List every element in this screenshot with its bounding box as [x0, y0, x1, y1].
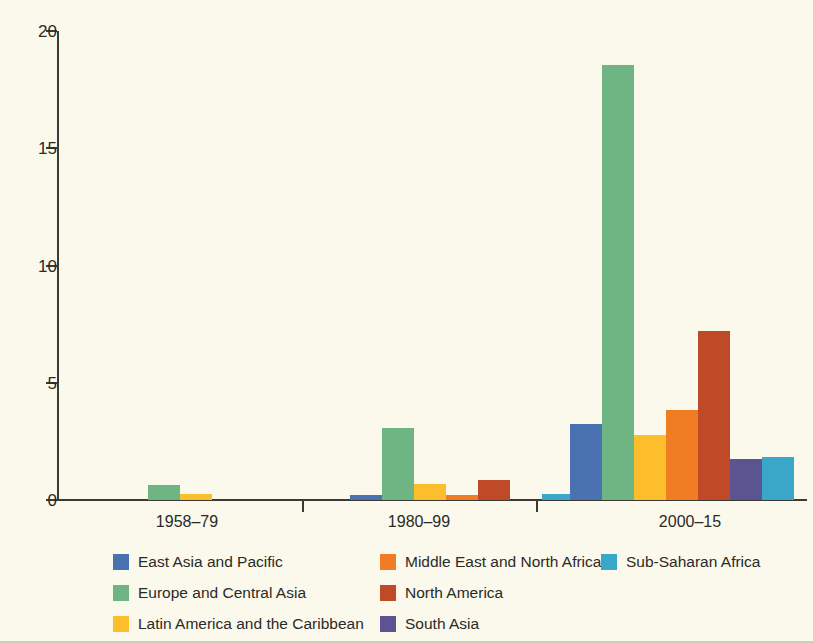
legend-item[interactable]: Middle East and North Africa — [380, 548, 601, 575]
bar — [478, 480, 510, 500]
bar — [148, 485, 180, 500]
legend-item[interactable]: North America — [380, 579, 601, 606]
bar — [602, 65, 634, 500]
legend-swatch-icon — [380, 585, 396, 601]
legend-label: South Asia — [405, 616, 479, 632]
legend-label: East Asia and Pacific — [138, 554, 283, 570]
legend-swatch-icon — [113, 585, 129, 601]
bars-layer — [0, 31, 813, 500]
legend-swatch-icon — [380, 554, 396, 570]
legend-item[interactable]: South Asia — [380, 610, 601, 637]
legend-swatch-icon — [601, 554, 617, 570]
legend-label: North America — [405, 585, 503, 601]
legend-item[interactable]: Sub-Saharan Africa — [601, 548, 760, 575]
legend-swatch-icon — [113, 616, 129, 632]
chart-legend: East Asia and PacificEurope and Central … — [0, 548, 813, 643]
bar — [698, 331, 730, 500]
legend-column-1: East Asia and PacificEurope and Central … — [113, 548, 364, 641]
plot-area: 05101520 1958–791980–992000–15 — [0, 0, 813, 520]
bar — [414, 484, 446, 500]
bar — [666, 410, 698, 500]
x-axis-group-label: 1958–79 — [156, 513, 218, 531]
bar — [180, 494, 212, 500]
legend-label: Latin America and the Caribbean — [138, 616, 364, 632]
legend-item[interactable]: East Asia and Pacific — [113, 548, 364, 575]
bar — [350, 495, 382, 500]
x-axis-group-label: 2000–15 — [659, 513, 721, 531]
legend-item[interactable]: Europe and Central Asia — [113, 579, 364, 606]
bar — [634, 435, 666, 500]
bar — [730, 459, 762, 500]
x-axis-group-label: 1980–99 — [388, 513, 450, 531]
chart-figure: 05101520 1958–791980–992000–15 East Asia… — [0, 0, 813, 643]
legend-label: Middle East and North Africa — [405, 554, 601, 570]
x-tick-mark — [302, 501, 304, 512]
legend-item[interactable]: Latin America and the Caribbean — [113, 610, 364, 637]
legend-swatch-icon — [113, 554, 129, 570]
legend-column-2: Middle East and North AfricaNorth Americ… — [380, 548, 601, 641]
legend-column-3: Sub-Saharan Africa — [601, 548, 760, 579]
legend-label: Europe and Central Asia — [138, 585, 306, 601]
x-tick-mark — [536, 501, 538, 512]
legend-label: Sub-Saharan Africa — [626, 554, 760, 570]
bar — [762, 457, 794, 500]
bar — [570, 424, 602, 500]
bar — [446, 495, 478, 500]
bar — [382, 428, 414, 500]
legend-swatch-icon — [380, 616, 396, 632]
